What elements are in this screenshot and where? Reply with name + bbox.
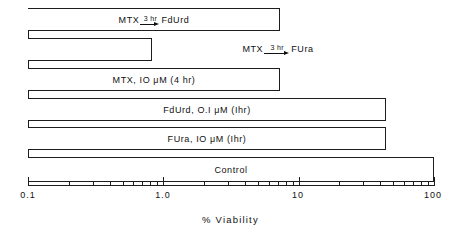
axis-tick-minor: [157, 181, 158, 186]
x-axis-title: % Viability: [0, 214, 461, 225]
axis-tick-minor: [269, 181, 270, 186]
arrow-shaft: [140, 22, 160, 27]
bar-mtx-fdurd: MTX 3 hr FdUrd: [28, 8, 280, 31]
axis-tick-major: [434, 177, 435, 186]
plot-area: MTX 3 hr FdUrd MTX 3 hr FUra: [28, 8, 435, 186]
bar-label-mtx-only: MTX, IO μM (4 hr): [28, 75, 280, 85]
arrow-3hr-icon: 3 hr: [140, 15, 160, 27]
axis-tick-minor: [110, 181, 111, 186]
arrow-duration-label: 3 hr: [144, 15, 157, 22]
tick-label-100: 100: [424, 190, 442, 200]
axis-tick-minor: [404, 181, 405, 186]
axis-tick-minor: [245, 181, 246, 186]
axis-tick-minor: [380, 181, 381, 186]
tick-label-10: 10: [292, 190, 304, 200]
tick-label-1-0: 1.0: [155, 190, 171, 200]
axis-tick-minor: [428, 181, 429, 186]
bar-label-fdurd-only: FdUrd, O.I μM (Ihr): [28, 105, 386, 115]
axis-tick-minor: [393, 181, 394, 186]
axis-tick-major: [28, 177, 29, 186]
label-reagent-pre: MTX: [119, 15, 140, 25]
axis-tick-minor: [123, 181, 124, 186]
axis-tick-minor: [286, 181, 287, 186]
label-reagent-pre: MTX: [242, 44, 263, 54]
axis-tick-minor: [293, 181, 294, 186]
axis-tick-major: [163, 177, 164, 186]
axis-tick-major: [299, 177, 300, 186]
bar-label-fura-only: FUra, IO μM (Ihr): [28, 134, 386, 144]
label-reagent-post: FdUrd: [161, 15, 189, 25]
tick-label-0-1: 0.1: [20, 190, 36, 200]
axis-tick-minor: [93, 181, 94, 186]
arrow-duration-label: 3 hr: [271, 44, 284, 51]
arrow-shaft: [264, 51, 290, 56]
figure-bar-chart-viability: MTX 3 hr FdUrd MTX 3 hr FUra: [0, 0, 461, 237]
axis-tick-minor: [421, 181, 422, 186]
bar-label-mtx-fdurd-text: MTX 3 hr FdUrd: [119, 14, 190, 26]
axis-tick-minor: [413, 181, 414, 186]
label-reagent-post: FUra: [291, 44, 313, 54]
axis-tick-minor: [258, 181, 259, 186]
bar-fdurd-only: FdUrd, O.I μM (Ihr): [28, 98, 386, 121]
axis-tick-minor: [339, 181, 340, 186]
bar-label-mtx-fura: MTX 3 hr FUra: [152, 43, 404, 55]
axis-tick-minor: [150, 181, 151, 186]
axis-tick-minor: [204, 181, 205, 186]
axis-tick-minor: [133, 181, 134, 186]
axis-tick-minor: [69, 181, 70, 186]
bar-label-mtx-fura-text: MTX 3 hr FUra: [242, 43, 313, 55]
bar-fura-only: FUra, IO μM (Ihr): [28, 127, 386, 150]
arrow-3hr-icon: 3 hr: [264, 44, 290, 56]
bar-mtx-only: MTX, IO μM (4 hr): [28, 68, 280, 91]
bar-label-mtx-fdurd: MTX 3 hr FdUrd: [28, 14, 280, 26]
axis-tick-minor: [228, 181, 229, 186]
value-axis-line: [28, 185, 435, 186]
bar-control: Control: [28, 157, 434, 182]
axis-tick-minor: [278, 181, 279, 186]
axis-tick-minor: [363, 181, 364, 186]
axis-tick-minor: [142, 181, 143, 186]
bar-label-control: Control: [28, 165, 434, 175]
bar-mtx-fura: [28, 38, 152, 61]
